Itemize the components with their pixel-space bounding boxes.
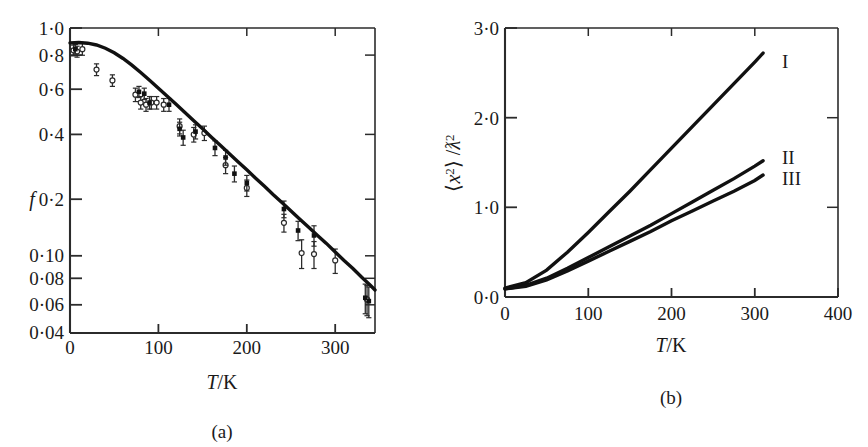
y-tick-label-a-2: 0·6 bbox=[39, 79, 64, 100]
y-axis-title-b: ⟨x2⟩ /ƛ2 bbox=[442, 134, 464, 191]
data-point-open bbox=[138, 100, 143, 105]
panel-a-y-ticks-right bbox=[365, 55, 375, 305]
panel-a-x-ticks-top bbox=[158, 28, 335, 36]
y-axis-title-b-denom: ƛ bbox=[442, 141, 464, 151]
data-point-filled bbox=[137, 90, 142, 95]
data-point-filled bbox=[223, 155, 228, 160]
y-tick-label-a-8: 0·04 bbox=[29, 322, 64, 343]
panel-a-caption: (a) bbox=[211, 421, 232, 443]
y-axis-title-a: f bbox=[29, 188, 37, 211]
x-tick-label-b-1: 100 bbox=[574, 303, 603, 324]
data-point-open bbox=[312, 252, 317, 257]
data-point-filled bbox=[193, 129, 198, 134]
data-point-filled bbox=[142, 91, 147, 96]
panel-b-x-ticks-top bbox=[588, 28, 755, 36]
y-axis-title-b-close: ⟩ bbox=[442, 160, 464, 168]
x-axis-title-b: T/K bbox=[655, 334, 687, 356]
y-tick-label-a-5: 0·10 bbox=[29, 245, 64, 266]
data-point-open bbox=[154, 100, 159, 105]
data-point-open bbox=[110, 78, 115, 83]
y-tick-label-b-1: 2·0 bbox=[474, 108, 499, 129]
data-point-filled bbox=[296, 228, 301, 233]
data-point-open bbox=[94, 67, 99, 72]
y-axis-title-b-symbol: x bbox=[442, 175, 464, 185]
data-point-filled bbox=[181, 135, 186, 140]
data-point-open bbox=[80, 47, 85, 52]
panel-a: 1·0 0·8 0·6 0·4 0·2 0·10 0·08 0·06 0·04 bbox=[0, 0, 434, 447]
panel-a-fit-curve bbox=[70, 43, 375, 290]
x-tick-label-b-4: 400 bbox=[824, 303, 853, 324]
panel-b-svg: 3·0 2·0 1·0 0·0 0 100 200 300 400 bbox=[434, 0, 868, 447]
data-point-open bbox=[161, 102, 166, 107]
panel-a-x-ticks bbox=[70, 324, 335, 333]
data-point-filled bbox=[232, 171, 237, 176]
panel-a-y-ticks bbox=[70, 28, 82, 333]
y-tick-label-a-4: 0·2 bbox=[39, 189, 64, 210]
data-point-open bbox=[299, 251, 304, 256]
panel-b: 3·0 2·0 1·0 0·0 0 100 200 300 400 bbox=[434, 0, 868, 447]
x-tick-label-a-2: 200 bbox=[233, 337, 262, 358]
panel-b-y-ticks-right bbox=[827, 118, 838, 208]
curve-label-III: III bbox=[782, 168, 801, 189]
y-tick-label-b-3: 0·0 bbox=[474, 287, 499, 308]
x-tick-label-b-3: 300 bbox=[741, 303, 770, 324]
y-tick-label-a-6: 0·08 bbox=[29, 268, 64, 289]
data-point-open bbox=[281, 220, 286, 225]
x-axis-title-a-rest: /K bbox=[218, 371, 239, 393]
curve-II bbox=[505, 161, 763, 289]
curve-label-II: II bbox=[782, 147, 795, 168]
y-axis-title-b-denom-sup: 2 bbox=[442, 134, 457, 141]
panel-b-x-ticks bbox=[505, 288, 838, 297]
data-point-open bbox=[333, 258, 338, 263]
x-tick-label-b-2: 200 bbox=[657, 303, 686, 324]
data-point-filled bbox=[167, 102, 172, 107]
y-axis-title-b-open: ⟨ bbox=[442, 184, 464, 192]
x-tick-label-a-0: 0 bbox=[65, 337, 75, 358]
y-axis-title-b-slash: / bbox=[442, 149, 464, 160]
figure-container: 1·0 0·8 0·6 0·4 0·2 0·10 0·08 0·06 0·04 bbox=[0, 0, 868, 447]
y-tick-label-a-3: 0·4 bbox=[39, 124, 65, 145]
panel-a-data-points bbox=[71, 43, 371, 317]
curve-label-I: I bbox=[782, 51, 788, 72]
panel-b-y-ticks bbox=[505, 28, 517, 297]
curve-I bbox=[505, 53, 763, 288]
panel-a-svg: 1·0 0·8 0·6 0·4 0·2 0·10 0·08 0·06 0·04 bbox=[0, 0, 434, 447]
y-tick-label-b-2: 1·0 bbox=[474, 197, 499, 218]
panel-a-axes bbox=[70, 28, 375, 333]
data-point-filled bbox=[367, 299, 372, 304]
x-tick-label-b-0: 0 bbox=[500, 303, 510, 324]
data-point-filled bbox=[147, 100, 152, 105]
data-point-filled bbox=[245, 181, 250, 186]
x-tick-label-a-1: 100 bbox=[144, 337, 173, 358]
y-tick-label-a-0: 1·0 bbox=[39, 18, 64, 39]
panel-b-caption: (b) bbox=[660, 387, 682, 409]
y-tick-label-a-1: 0·8 bbox=[39, 45, 64, 66]
y-tick-label-b-0: 3·0 bbox=[474, 18, 499, 39]
data-point-filled bbox=[213, 146, 218, 151]
x-axis-title-b-rest: /K bbox=[667, 334, 688, 356]
y-tick-label-a-7: 0·06 bbox=[29, 294, 64, 315]
data-point-filled bbox=[73, 47, 78, 52]
x-tick-label-a-3: 300 bbox=[321, 337, 350, 358]
x-axis-title-a: T/K bbox=[206, 371, 238, 393]
